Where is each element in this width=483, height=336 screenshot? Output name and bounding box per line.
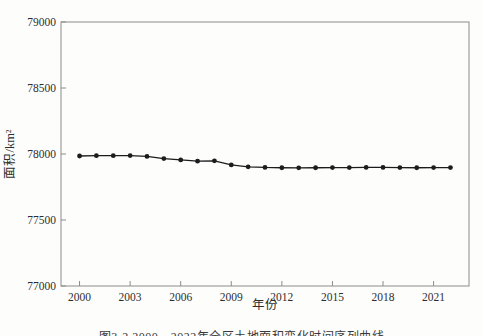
data-point-marker — [431, 165, 436, 170]
data-point-marker — [161, 156, 166, 161]
x-axis-title: 年份 — [252, 298, 278, 312]
data-point-marker — [296, 165, 301, 170]
data-point-marker — [94, 153, 99, 158]
data-point-marker — [364, 165, 369, 170]
data-point-marker — [397, 165, 402, 170]
data-point-marker — [414, 165, 419, 170]
data-point-marker — [279, 165, 284, 170]
data-series-line — [77, 153, 453, 170]
data-point-marker — [212, 158, 217, 163]
data-point-marker — [229, 163, 234, 168]
data-point-marker — [246, 164, 251, 169]
data-point-marker — [111, 153, 116, 158]
data-point-marker — [128, 153, 133, 158]
data-point-marker — [330, 165, 335, 170]
data-point-marker — [145, 154, 150, 159]
data-point-marker — [195, 159, 200, 164]
y-tick-label: 78000 — [27, 148, 56, 160]
x-tick-label: 2018 — [372, 291, 395, 303]
axis-ticks — [61, 22, 434, 286]
figure-area: 7700077500780007850079000200020032006200… — [0, 0, 483, 336]
x-tick-label: 2000 — [68, 291, 91, 303]
axis-tick-labels: 7700077500780007850079000200020032006200… — [27, 16, 445, 303]
y-tick-label: 79000 — [27, 16, 56, 28]
figure-caption-clipped: 图3-2 2000—2022年全区土地面积变化时间序列曲线 — [0, 327, 483, 336]
data-point-marker — [347, 165, 352, 170]
data-point-marker — [178, 158, 183, 163]
x-tick-label: 2009 — [220, 291, 243, 303]
y-tick-label: 77500 — [27, 214, 56, 226]
x-tick-label: 2003 — [119, 291, 142, 303]
y-tick-label: 78500 — [27, 82, 56, 94]
x-tick-label: 2006 — [169, 291, 192, 303]
data-point-marker — [313, 165, 318, 170]
x-tick-label: 2021 — [422, 291, 445, 303]
x-tick-label: 2015 — [321, 291, 344, 303]
data-point-marker — [448, 165, 453, 170]
data-point-marker — [77, 154, 82, 159]
y-axis-title: 面积/km² — [3, 129, 17, 178]
plot-frame — [61, 22, 469, 286]
data-point-marker — [263, 165, 268, 170]
data-point-marker — [381, 165, 386, 170]
y-tick-label: 77000 — [27, 280, 56, 292]
area-time-series-chart: 7700077500780007850079000200020032006200… — [0, 0, 483, 336]
